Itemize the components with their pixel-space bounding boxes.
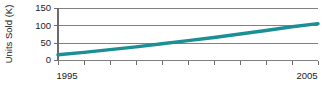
y-tick-label-150: 150 xyxy=(35,2,51,13)
y-tick-label-0: 0 xyxy=(46,54,51,65)
chart-canvas: 050100150 Units Sold (K) 1995 2005 xyxy=(0,0,332,91)
line-chart: 050100150 Units Sold (K) 1995 2005 xyxy=(0,0,332,91)
y-tick-label-100: 100 xyxy=(35,20,51,31)
x-axis-label-start: 1995 xyxy=(56,70,77,81)
x-axis-label-end: 2005 xyxy=(296,70,317,81)
y-axis-title: Units Sold (K) xyxy=(3,5,14,64)
y-tick-label-50: 50 xyxy=(40,37,51,48)
